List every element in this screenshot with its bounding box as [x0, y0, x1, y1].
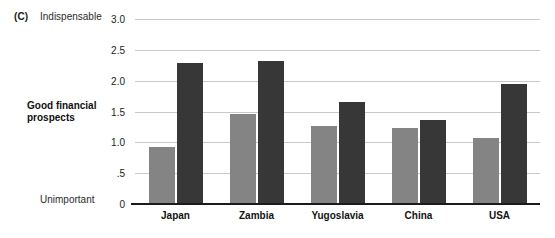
chart-figure: (C) Indispensable Good financial prospec… — [0, 0, 555, 238]
x-axis-tick-label-zambia: Zambia — [239, 210, 274, 221]
y-axis-tick-labels: 0.51.01.52.02.53.0 — [0, 19, 131, 204]
y-axis-tick-label: 2.5 — [111, 44, 125, 55]
gridline — [135, 50, 540, 51]
y-axis-tick-label: .5 — [117, 168, 125, 179]
gridline — [135, 19, 540, 20]
bar-japan-series_b — [177, 63, 203, 204]
bar-china-series_b — [420, 120, 446, 204]
x-axis-tick-label-china: China — [405, 210, 433, 221]
x-axis-tick-label-japan: Japan — [161, 210, 190, 221]
y-axis-tick-label: 3.0 — [111, 14, 125, 25]
bar-zambia-series_b — [258, 61, 284, 204]
bar-yugoslavia-series_a — [311, 126, 337, 204]
x-axis-line — [131, 203, 540, 205]
bar-usa-series_a — [473, 138, 499, 204]
bar-china-series_a — [392, 128, 418, 204]
bar-japan-series_a — [149, 147, 175, 204]
bar-yugoslavia-series_b — [339, 102, 365, 204]
y-axis-tick-label: 1.0 — [111, 137, 125, 148]
y-axis-tick-label: 2.0 — [111, 75, 125, 86]
plot-area — [135, 19, 540, 204]
bar-usa-series_b — [501, 84, 527, 204]
bar-zambia-series_a — [230, 114, 256, 204]
y-axis-tick-label: 1.5 — [111, 106, 125, 117]
y-axis-tick-label: 0 — [119, 199, 125, 210]
x-axis-tick-label-yugoslavia: Yugoslavia — [311, 210, 363, 221]
x-axis-tick-label-usa: USA — [489, 210, 510, 221]
